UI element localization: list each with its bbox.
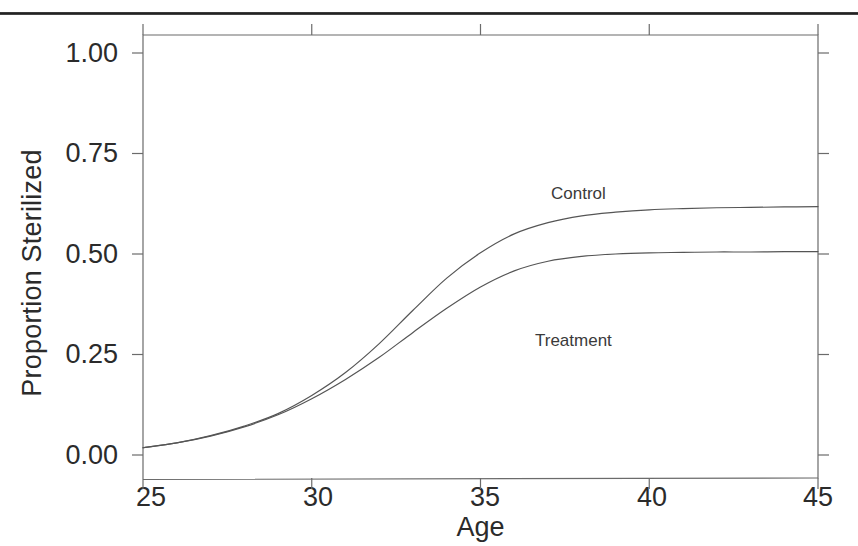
- figure-canvas: Proportion Sterilized Age 1.00 0.75 0.50…: [0, 0, 858, 546]
- plot-frame: [143, 35, 818, 480]
- line-series-treatment: [143, 252, 818, 448]
- axis-ticks: [132, 24, 829, 489]
- line-series-control: [143, 207, 818, 448]
- plot-area: [0, 0, 858, 546]
